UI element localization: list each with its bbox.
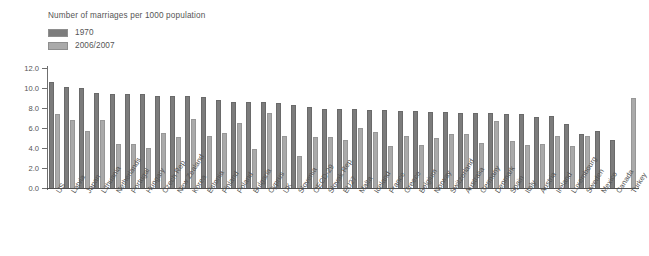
legend-swatch-2006-2007 (48, 42, 68, 50)
bar-group (290, 68, 305, 188)
bar-1970 (49, 82, 54, 188)
x-axis-labels: USLatviaJapanLithuaniaNetherlandsPortuga… (48, 190, 639, 254)
bar-group (48, 68, 63, 188)
y-axis-tick (42, 88, 47, 89)
bar-group (351, 68, 366, 188)
bar-group (93, 68, 108, 188)
bar-2006-2007 (282, 136, 287, 188)
legend-item-2006-2007: 2006/2007 (48, 40, 115, 51)
y-axis-tick (42, 128, 47, 129)
bar-group (63, 68, 78, 188)
y-axis-tick-label: 0.0 (10, 184, 39, 193)
y-axis-tick-label: 2.0 (10, 164, 39, 173)
bar-1970 (534, 117, 539, 188)
y-axis-tick-label: 4.0 (10, 144, 39, 153)
bar-1970 (291, 105, 296, 188)
y-axis-tick-label: 6.0 (10, 124, 39, 133)
bar-group (366, 68, 381, 188)
chart-legend: 1970 2006/2007 (48, 27, 115, 53)
y-axis-tick-label: 8.0 (10, 104, 39, 113)
bar-2006-2007 (70, 120, 75, 188)
y-axis-tick (42, 108, 47, 109)
bar-1970 (64, 87, 69, 188)
bar-group (533, 68, 548, 188)
legend-swatch-1970 (48, 29, 68, 37)
bar-group (78, 68, 93, 188)
y-axis-tick (42, 148, 47, 149)
bar-2006-2007 (55, 114, 60, 188)
y-axis-tick (42, 68, 47, 69)
legend-label-1970: 1970 (75, 28, 94, 37)
y-axis-tick-label: 12.0 (10, 64, 39, 73)
bar-group (518, 68, 533, 188)
y-axis-tick (42, 188, 47, 189)
y-axis-tick-label: 10.0 (10, 84, 39, 93)
legend-item-1970: 1970 (48, 27, 115, 38)
chart-title: Number of marriages per 1000 population (48, 11, 205, 20)
y-axis-tick (42, 168, 47, 169)
bar-group (200, 68, 215, 188)
legend-label-2006-2007: 2006/2007 (75, 41, 115, 50)
